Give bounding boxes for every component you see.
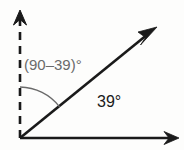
diagram-background	[0, 0, 184, 150]
angle-diagram: (90–39)° 39°	[0, 0, 184, 150]
angle-value-label: 39°	[97, 93, 121, 110]
complement-angle-label: (90–39)°	[24, 56, 82, 73]
